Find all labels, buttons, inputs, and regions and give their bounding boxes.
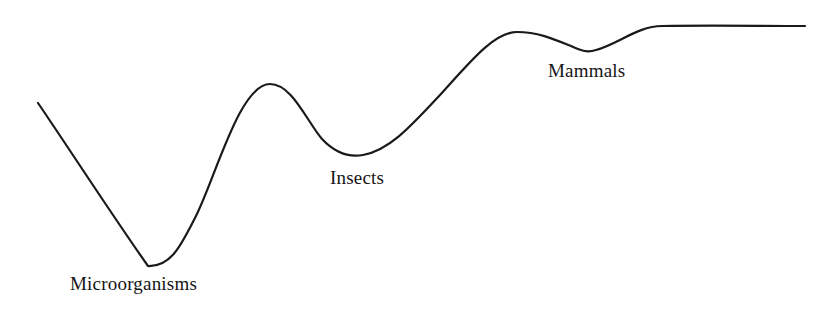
plot-background: [0, 0, 836, 312]
curve-label-insects: Insects: [330, 168, 384, 187]
complexity-curve-plot: [0, 0, 836, 312]
curve-label-mammals: Mammals: [548, 61, 625, 80]
curve-label-microorganisms: Microorganisms: [70, 274, 197, 293]
chart-figure: Microorganisms Insects Mammals: [0, 0, 836, 312]
